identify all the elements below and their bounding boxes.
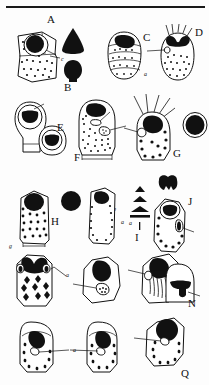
annotation-G-a: a: [121, 219, 124, 225]
panel-label-I: I: [135, 232, 139, 243]
panel-O-drawing: [13, 320, 65, 376]
panel-J-drawing: [148, 196, 192, 256]
panel-L-drawing: [78, 256, 126, 308]
panel-O: O: [13, 320, 65, 376]
annotation-K-L-a: a: [66, 272, 69, 278]
panel-I: [79, 186, 121, 248]
panel-label-H: H: [51, 216, 59, 227]
panel-K: K .: [10, 253, 62, 311]
panel-label-G: G: [173, 148, 181, 159]
panel-label-A: A: [47, 14, 55, 25]
panel-F: p a: [74, 98, 122, 164]
panel-B: B: [60, 26, 88, 84]
panel-C: C: [105, 30, 145, 82]
panel-label-E: E: [57, 122, 64, 133]
panel-D: a D: [155, 24, 201, 84]
panel-J: a: [148, 196, 192, 256]
panel-A: c: [12, 28, 64, 84]
panel-G-isolated-nucleus: [182, 112, 208, 138]
panel-Q-drawing: [140, 316, 192, 372]
panel-N: a N: [160, 262, 202, 310]
panel-label-J: J: [188, 196, 192, 207]
isolated-nucleus-drawing: [182, 112, 208, 138]
figure-plate: c A B C: [0, 0, 209, 385]
isolated-nucleus-drawing: [155, 174, 181, 192]
panel-label-B: B: [64, 82, 71, 93]
panel-K-drawing: [10, 253, 62, 311]
panel-H: [12, 188, 56, 248]
top-rule: [6, 6, 205, 8]
panel-J-isolated-nucleus: [155, 174, 181, 192]
panel-P: P: [80, 320, 126, 376]
panel-P-drawing: [80, 320, 126, 376]
panel-B-drawing: [60, 26, 88, 84]
panel-I-drawing: [79, 186, 121, 248]
panel-label-D: D: [195, 27, 203, 38]
panel-H-drawing: [12, 188, 56, 248]
panel-Q: a Q: [140, 316, 192, 372]
panel-L: L: [78, 256, 126, 308]
panel-F-drawing: [74, 98, 122, 164]
panel-A-drawing: [12, 28, 64, 84]
panel-label-C: C: [143, 32, 150, 43]
panel-label-F: F: [74, 152, 80, 163]
panel-C-drawing: [105, 30, 145, 82]
annotation-D-a: a: [144, 71, 147, 77]
panel-label-N: N: [188, 298, 196, 309]
panel-label-Q: Q: [181, 368, 189, 379]
